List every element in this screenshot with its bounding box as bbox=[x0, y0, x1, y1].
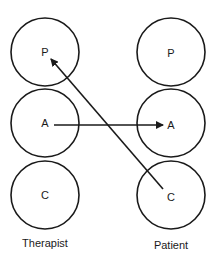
therapist-column: P A C Therapist bbox=[11, 18, 79, 249]
patient-adult-label: A bbox=[167, 119, 175, 131]
ego-state-diagram: P A C Therapist P A C Patient bbox=[0, 0, 216, 263]
patient-column: P A C Patient bbox=[137, 18, 205, 251]
therapist-parent-label: P bbox=[41, 46, 48, 58]
therapist-caption: Therapist bbox=[22, 237, 68, 249]
patient-parent-label: P bbox=[167, 47, 174, 59]
patient-caption: Patient bbox=[154, 239, 188, 251]
patient-child-label: C bbox=[167, 191, 175, 203]
therapist-child-label: C bbox=[41, 189, 49, 201]
therapist-adult-label: A bbox=[41, 117, 49, 129]
